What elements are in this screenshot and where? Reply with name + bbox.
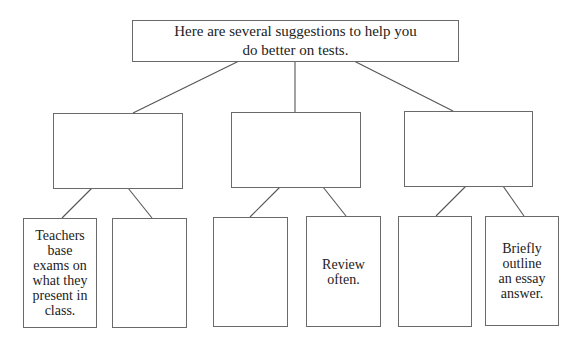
leaf-box-1-1: Teachers base exams on what they present… (23, 218, 97, 328)
leaf-text: Briefly outline an essay answer. (498, 241, 545, 301)
category-box-1 (53, 113, 183, 189)
root-box: Here are several suggestions to help you… (132, 20, 459, 62)
category-box-2 (231, 112, 361, 188)
leaf-box-2-2: Review often. (306, 216, 381, 327)
tree-diagram: Here are several suggestions to help you… (0, 0, 588, 344)
leaf-box-1-2 (112, 218, 187, 328)
leaf-box-3-1 (398, 216, 472, 327)
root-text: Here are several suggestions to help you… (174, 22, 416, 60)
leaf-box-3-2: Briefly outline an essay answer. (485, 216, 559, 326)
leaf-box-2-1 (213, 217, 288, 327)
category-box-3 (404, 111, 533, 187)
leaf-text: Review often. (322, 257, 365, 287)
leaf-text: Teachers base exams on what they present… (33, 228, 88, 318)
